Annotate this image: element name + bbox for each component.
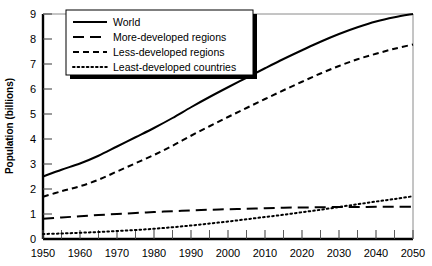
y-tick-label: 7 <box>30 58 36 70</box>
y-tick-label: 9 <box>30 8 36 20</box>
x-tick-label: 2050 <box>401 247 425 259</box>
x-tick-label: 2030 <box>327 247 351 259</box>
legend-label-1: More-developed regions <box>113 31 226 43</box>
y-tick-label: 5 <box>30 108 36 120</box>
x-tick-label: 1990 <box>179 247 203 259</box>
legend-label-3: Least-developed countries <box>113 61 236 73</box>
legend-label-0: World <box>113 16 140 28</box>
y-tick-label: 4 <box>30 133 36 145</box>
y-tick-label: 2 <box>30 183 36 195</box>
x-axis-tick-labels: 1950196019701980199020002010202020302040… <box>31 247 425 259</box>
x-tick-label: 1960 <box>68 247 92 259</box>
x-tick-label: 1950 <box>31 247 55 259</box>
y-tick-label: 0 <box>30 233 36 245</box>
y-tick-label: 8 <box>30 33 36 45</box>
chart-page: 1950196019701980199020002010202020302040… <box>0 0 432 266</box>
population-projection-chart: 1950196019701980199020002010202020302040… <box>0 0 432 266</box>
x-tick-label: 2020 <box>290 247 314 259</box>
legend-label-2: Less-developed regions <box>113 46 225 58</box>
y-tick-label: 6 <box>30 83 36 95</box>
y-tick-label: 1 <box>30 208 36 220</box>
x-tick-label: 1980 <box>142 247 166 259</box>
chart-legend: WorldMore-developed regionsLess-develope… <box>66 10 257 79</box>
x-tick-label: 2040 <box>364 247 388 259</box>
y-tick-label: 3 <box>30 158 36 170</box>
x-tick-label: 2000 <box>216 247 240 259</box>
x-tick-label: 1970 <box>105 247 129 259</box>
x-tick-label: 2010 <box>253 247 277 259</box>
y-axis-title: Population (billions) <box>4 78 15 174</box>
